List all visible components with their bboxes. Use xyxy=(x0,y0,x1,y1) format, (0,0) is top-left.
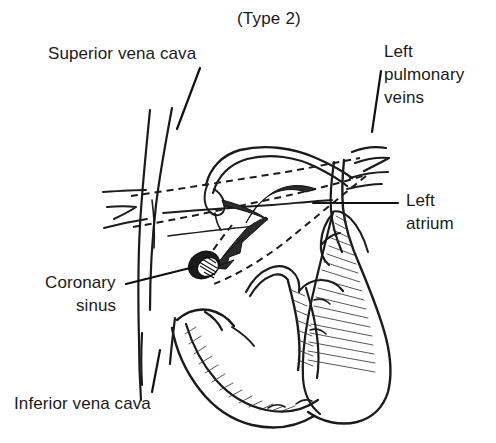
coronary-sinus-ostium xyxy=(184,246,224,284)
label-left-pulmonary-veins-line3: veins xyxy=(384,87,424,108)
label-left-pulmonary-veins-line2: pulmonary xyxy=(384,64,464,85)
label-left-pulmonary-veins-line1: Left xyxy=(384,41,413,62)
inferior-vena-cava-vessel xyxy=(141,318,175,385)
catheter-direction-arrow xyxy=(212,186,316,269)
label-left-atrium-line1: Left xyxy=(406,190,435,211)
label-inferior-vena-cava: Inferior vena cava xyxy=(14,393,151,414)
label-coronary-sinus-line1: Coronary xyxy=(45,272,116,293)
lower-chamber-walls xyxy=(172,266,343,427)
leader-superior-vena-cava xyxy=(177,68,200,129)
left-atrium-body xyxy=(303,160,391,424)
leader-inferior-vena-cava xyxy=(152,350,160,392)
left-pulmonary-veins xyxy=(347,147,389,189)
figure-title: (Type 2) xyxy=(237,9,301,29)
leader-left-pulmonary-veins xyxy=(372,71,381,132)
label-left-atrium-line2: atrium xyxy=(406,213,454,234)
leader-coronary-sinus xyxy=(126,267,194,284)
superior-vena-cava-vessel xyxy=(138,108,172,400)
label-superior-vena-cava: Superior vena cava xyxy=(48,43,196,64)
anatomical-figure: (Type 2) Superior vena cava Left pulmona… xyxy=(0,0,496,443)
label-coronary-sinus-line2: sinus xyxy=(76,295,116,316)
